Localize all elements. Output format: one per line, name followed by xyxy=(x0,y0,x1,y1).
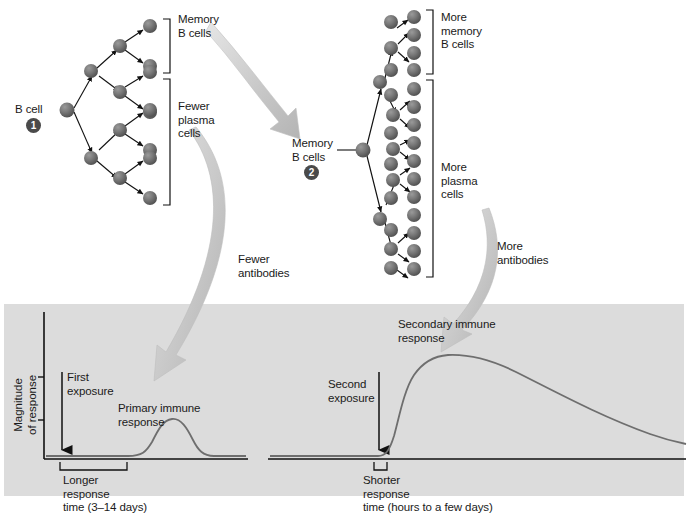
longer-response-time-label: Longer response time (3–14 days) xyxy=(63,474,147,515)
bracket-plasma-cells-1 xyxy=(163,79,170,205)
b-cell-root xyxy=(60,103,75,118)
more-memory-b-cells-label: More memory B cells xyxy=(441,11,482,52)
first-exposure-label: First exposure xyxy=(67,371,114,398)
more-plasma-cells-label: More plasma cells xyxy=(441,161,477,202)
bracket-plasma-cells-2 xyxy=(426,80,433,277)
second-exposure-label: Second exposure xyxy=(328,378,375,405)
fewer-antibodies-label: Fewer antibodies xyxy=(238,253,289,280)
bracket-memory-b-cells-1 xyxy=(163,19,170,73)
more-antibodies-label: More antibodies xyxy=(497,240,548,267)
fewer-plasma-cells-label: Fewer plasma cells xyxy=(178,100,214,141)
chart-y-axis-label: Magnitude of response xyxy=(12,375,39,435)
immune-response-figure: B cell 1 Memory B cells Fewer plasma cel… xyxy=(0,0,688,523)
memory-b-cells-label-1: Memory B cells xyxy=(178,13,219,40)
bracket-memory-b-cells-2 xyxy=(426,10,433,74)
step-2-badge: 2 xyxy=(304,165,319,180)
step-1-badge: 1 xyxy=(26,118,41,133)
figure-canvas xyxy=(0,0,688,523)
b-cell-label: B cell xyxy=(15,103,43,117)
shorter-response-time-label: Shorter response time (hours to a few da… xyxy=(363,474,493,515)
secondary-immune-response-label: Secondary immune response xyxy=(398,318,495,345)
memory-b-cells-label-2: Memory B cells xyxy=(292,137,333,164)
stage1-cell-tree xyxy=(60,19,171,205)
stage-transition-arrow xyxy=(206,22,300,139)
stage2-cell-tree xyxy=(337,10,433,278)
primary-immune-response-label: Primary immune response xyxy=(118,402,200,429)
memory-b-cell-root xyxy=(356,143,371,158)
